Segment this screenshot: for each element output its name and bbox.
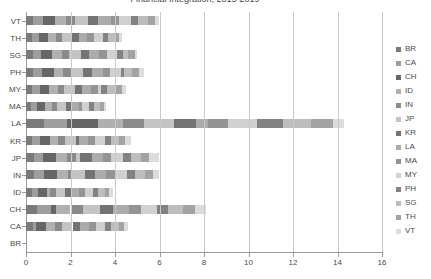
bar-segment[interactable] [88, 16, 98, 25]
bar-segment[interactable] [79, 136, 88, 145]
bar-segment[interactable] [283, 119, 311, 128]
bar-segment[interactable] [72, 33, 79, 42]
bar-segment[interactable] [38, 188, 47, 197]
bar-segment[interactable] [141, 153, 149, 162]
bar-segment[interactable] [124, 222, 128, 231]
bar-segment[interactable] [71, 68, 83, 77]
bar-segment[interactable] [125, 136, 130, 145]
bar-segment[interactable] [183, 205, 195, 214]
bar-segment[interactable] [55, 222, 62, 231]
bar-segment[interactable] [54, 68, 64, 77]
bar-segment[interactable] [96, 222, 105, 231]
bar-segment[interactable] [109, 188, 112, 197]
legend-item[interactable]: TH [396, 210, 431, 224]
bar-segment[interactable] [43, 16, 55, 25]
legend-item[interactable]: LA [396, 140, 431, 154]
bar-segment[interactable] [131, 16, 139, 25]
bar-segment[interactable] [115, 170, 127, 179]
legend-item[interactable]: JP [396, 112, 431, 126]
bar-segment[interactable] [100, 205, 113, 214]
bar-segment[interactable] [127, 170, 135, 179]
bar-segment[interactable] [52, 50, 61, 59]
bar-segment[interactable] [26, 68, 33, 77]
bar-segment[interactable] [49, 85, 57, 94]
bar-segment[interactable] [62, 50, 70, 59]
bar-segment[interactable] [85, 188, 93, 197]
bar-segment[interactable] [75, 16, 88, 25]
bar-segment[interactable] [149, 153, 160, 162]
bar-segment[interactable] [124, 68, 132, 77]
bar-segment[interactable] [89, 222, 96, 231]
legend-item[interactable]: VT [396, 224, 431, 238]
bar-segment[interactable] [58, 136, 65, 145]
bar-segment[interactable] [44, 119, 67, 128]
bar-segment[interactable] [33, 68, 42, 77]
bar-segment[interactable] [135, 50, 137, 59]
bar-segment[interactable] [72, 170, 85, 179]
bar-segment[interactable] [91, 85, 98, 94]
legend-item[interactable]: PH [396, 182, 431, 196]
bar-segment[interactable] [83, 205, 100, 214]
bar-segment[interactable] [131, 153, 141, 162]
bar-segment[interactable] [26, 50, 33, 59]
legend-item[interactable]: IN [396, 98, 431, 112]
bar-segment[interactable] [82, 85, 91, 94]
bar-segment[interactable] [79, 33, 87, 42]
bar-segment[interactable] [26, 16, 33, 25]
bar-segment[interactable] [311, 119, 333, 128]
bar-segment[interactable] [98, 16, 110, 25]
bar-segment[interactable] [145, 170, 153, 179]
bar-segment[interactable] [26, 170, 34, 179]
bar-segment[interactable] [81, 50, 89, 59]
bar-segment[interactable] [82, 102, 89, 111]
bar-segment[interactable] [92, 68, 102, 77]
bar-segment[interactable] [56, 188, 65, 197]
bar-segment[interactable] [135, 170, 145, 179]
bar-segment[interactable] [42, 68, 54, 77]
bar-segment[interactable] [122, 85, 126, 94]
bar-segment[interactable] [75, 85, 83, 94]
bar-segment[interactable] [257, 119, 283, 128]
bar-segment[interactable] [73, 222, 81, 231]
bar-segment[interactable] [45, 102, 52, 111]
bar-segment[interactable] [208, 119, 228, 128]
bar-segment[interactable] [26, 205, 37, 214]
bar-segment[interactable] [196, 119, 208, 128]
bar-segment[interactable] [111, 153, 123, 162]
bar-segment[interactable] [72, 102, 79, 111]
bar-segment[interactable] [88, 136, 95, 145]
bar-segment[interactable] [228, 119, 257, 128]
bar-segment[interactable] [40, 136, 50, 145]
bar-segment[interactable] [80, 153, 92, 162]
bar-segment[interactable] [56, 205, 71, 214]
bar-segment[interactable] [98, 119, 122, 128]
bar-segment[interactable] [40, 85, 50, 94]
bar-segment[interactable] [34, 170, 44, 179]
bar-segment[interactable] [128, 50, 135, 59]
bar-segment[interactable] [57, 102, 65, 111]
bar-segment[interactable] [119, 16, 130, 25]
bar-segment[interactable] [333, 119, 344, 128]
bar-segment[interactable] [32, 85, 39, 94]
bar-segment[interactable] [83, 68, 92, 77]
bar-segment[interactable] [129, 205, 141, 214]
bar-segment[interactable] [33, 16, 43, 25]
bar-segment[interactable] [26, 153, 34, 162]
bar-segment[interactable] [58, 85, 65, 94]
bar-segment[interactable] [87, 33, 94, 42]
bar-segment[interactable] [148, 16, 155, 25]
legend-item[interactable]: MA [396, 154, 431, 168]
bar-segment[interactable] [36, 222, 46, 231]
bar-segment[interactable] [39, 33, 48, 42]
bar-segment[interactable] [138, 16, 148, 25]
bar-segment[interactable] [50, 136, 58, 145]
bar-segment[interactable] [41, 50, 52, 59]
bar-segment[interactable] [141, 205, 157, 214]
bar-segment[interactable] [174, 119, 196, 128]
bar-segment[interactable] [57, 170, 68, 179]
bar-segment[interactable] [89, 50, 99, 59]
legend-item[interactable]: CA [396, 56, 431, 70]
bar-segment[interactable] [48, 33, 56, 42]
bar-segment[interactable] [26, 119, 44, 128]
legend-item[interactable]: CH [396, 70, 431, 84]
